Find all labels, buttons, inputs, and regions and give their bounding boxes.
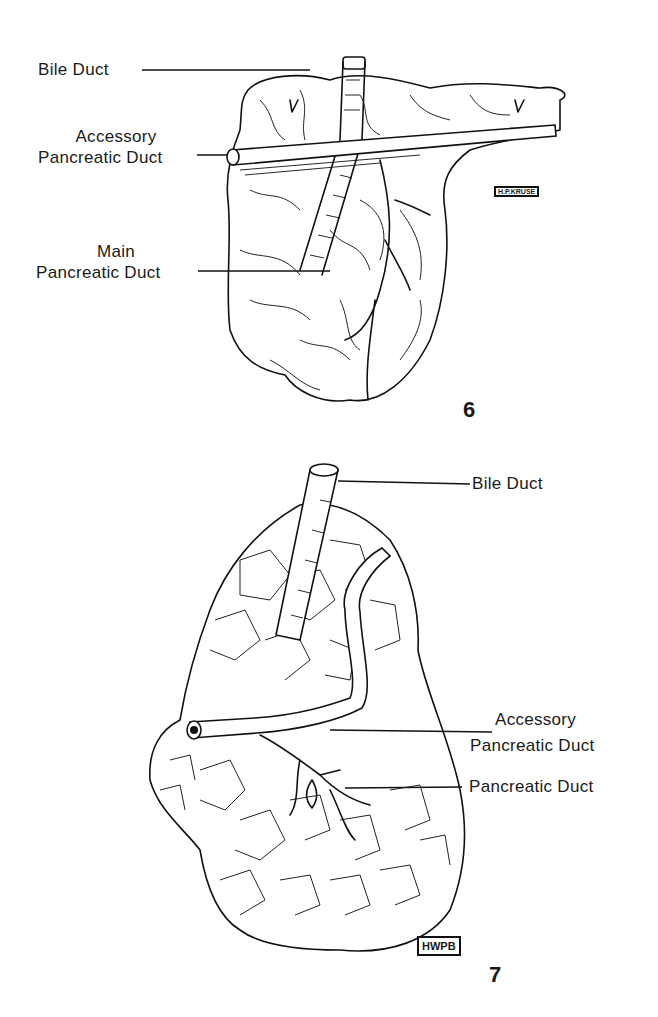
pancreas-illustration-fig7 xyxy=(0,0,658,1017)
artist-signature-fig7: HWPB xyxy=(417,936,461,956)
label-accessory-duct-line2-fig7: Pancreatic Duct xyxy=(470,736,595,756)
label-bile-duct-fig7: Bile Duct xyxy=(472,474,543,494)
label-accessory-duct-line1-fig7: Accessory xyxy=(495,710,576,730)
label-pancreatic-duct-fig7: Pancreatic Duct xyxy=(469,777,594,797)
figure-number-7: 7 xyxy=(489,962,501,988)
